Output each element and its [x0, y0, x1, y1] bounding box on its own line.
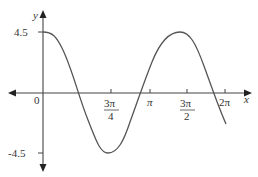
tick-3pi4-denominator: 4: [108, 110, 114, 122]
x-axis-left-arrow-icon: [8, 90, 16, 97]
y-axis-up-arrow-icon: [40, 10, 47, 18]
y-max-label: 4.5: [14, 26, 28, 38]
tick-3pi2-numerator: 3π: [180, 97, 192, 109]
tick-3pi2-denominator: 2: [184, 110, 190, 122]
x-axis-label: x: [243, 93, 249, 105]
function-graph: y x 0 4.5 -4.5 3π 4 π 3π 2 2π: [0, 0, 258, 177]
y-min-label: -4.5: [8, 147, 26, 159]
origin-label: 0: [34, 94, 40, 106]
y-axis-down-arrow-icon: [40, 164, 47, 172]
tick-2pi-label: 2π: [219, 96, 231, 108]
tick-pi-label: π: [147, 96, 153, 108]
y-axis-label: y: [32, 9, 38, 21]
tick-3pi4-numerator: 3π: [104, 97, 116, 109]
